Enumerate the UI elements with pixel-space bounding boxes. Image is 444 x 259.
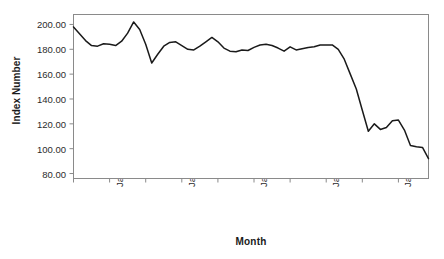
line-chart: Index Number 80.00100.00120.00140.00160.… <box>0 0 444 259</box>
x-axis-ticks <box>74 179 399 183</box>
x-axis-title-text: Month <box>236 236 267 247</box>
plot-area <box>0 0 444 259</box>
x-axis-title: Month <box>73 236 429 247</box>
plot-frame <box>74 15 429 179</box>
y-axis-ticks <box>70 24 74 173</box>
